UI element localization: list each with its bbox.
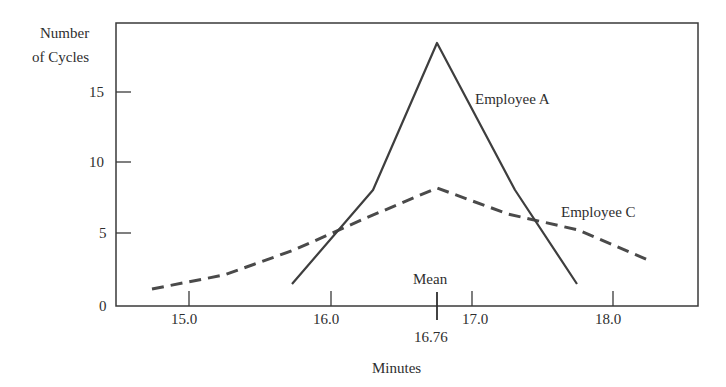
series-label-employee-c: Employee C (561, 205, 636, 220)
y-axis-title-line2: of Cycles (32, 50, 89, 65)
x-tick-label-16: 16.0 (313, 312, 339, 327)
x-tick-label-15: 15.0 (171, 312, 197, 327)
mean-label: Mean (413, 272, 447, 287)
x-axis-ticks (189, 291, 613, 306)
mean-value-label: 16.76 (414, 330, 448, 345)
series-employee-a-line (292, 43, 577, 284)
plot-frame (116, 23, 698, 306)
x-tick-label-17: 17.0 (462, 312, 488, 327)
y-tick-label-0: 0 (99, 299, 107, 314)
series-label-employee-a: Employee A (475, 92, 550, 107)
chart-canvas (0, 0, 726, 387)
y-tick-label-10: 10 (89, 155, 104, 170)
y-axis-title-line1: Number (40, 26, 89, 41)
x-tick-label-18: 18.0 (595, 312, 621, 327)
y-tick-label-15: 15 (89, 85, 104, 100)
y-axis-ticks (116, 92, 131, 233)
y-tick-label-5: 5 (99, 226, 107, 241)
x-axis-title: Minutes (372, 361, 421, 376)
